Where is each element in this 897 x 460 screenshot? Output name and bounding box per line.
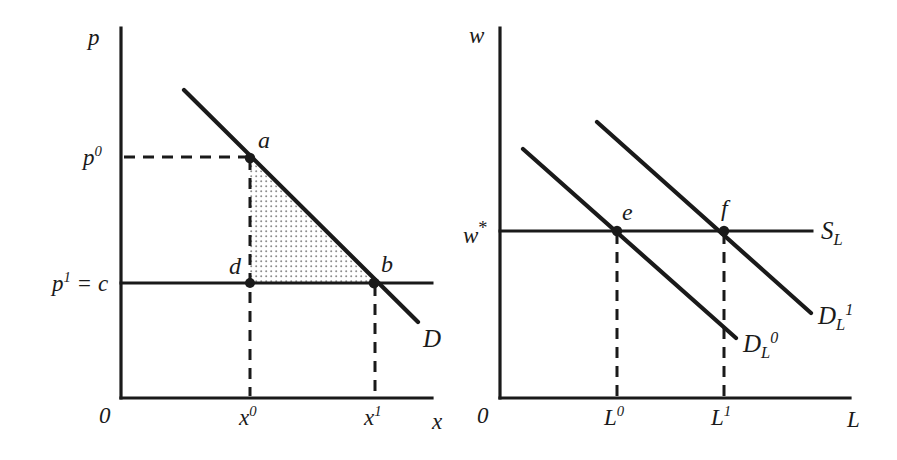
right-x-axis-label: L [847,408,860,431]
tick-label-x0: x0 [239,404,257,429]
labour-demand-curve-DL0 [523,149,736,338]
point-f-marker [719,226,729,236]
curve-label-D: D [423,326,441,351]
right-origin-label: 0 [477,404,489,427]
tick-label-w-star: w* [463,219,488,247]
economics-figure: p 0 p0 p1 = c x0 x1 x a d b D w 0 w* L0 … [0,0,897,460]
point-b-marker [369,278,380,289]
point-label-a: a [258,128,270,152]
point-e-marker [612,226,622,236]
point-label-f: f [721,196,728,220]
point-d-marker [245,278,255,288]
point-label-e: e [622,200,633,224]
tick-label-L0: L0 [604,404,624,429]
point-label-b: b [381,252,393,276]
figure-canvas [0,0,897,460]
point-a-marker [245,153,255,163]
right-panel-group [500,28,850,398]
demand-curve-D [184,90,418,322]
curve-label-DL1: DL1 [818,302,853,334]
curve-label-SL: SL [821,218,843,249]
left-x-axis-label: x [432,410,442,433]
tick-label-L1: L1 [711,404,731,429]
left-y-axis-label: p [88,26,100,49]
welfare-gain-triangle [250,159,374,283]
curve-label-DL0: DL0 [743,330,778,362]
left-origin-label: 0 [99,404,111,427]
right-y-axis-label: w [469,24,484,47]
tick-label-p1-equals-c: p1 = c [52,270,108,295]
tick-label-p0: p0 [83,144,102,169]
point-label-d: d [229,254,241,278]
left-panel-group [121,28,432,398]
tick-label-x1: x1 [364,404,382,429]
